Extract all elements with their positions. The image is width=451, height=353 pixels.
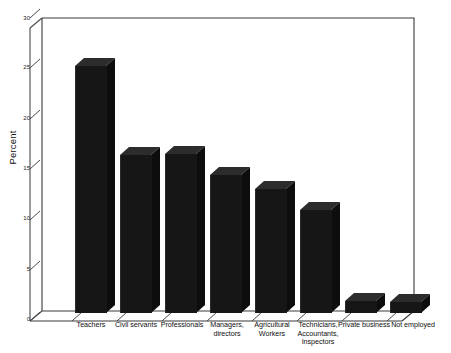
x-tick-label-not-employed: Not employed — [380, 321, 446, 330]
x-axis-tick-labels: Teachers Civil servants Professionals Ma… — [0, 321, 451, 353]
bar-series — [0, 0, 451, 353]
bar-chart-screenshot: Percent 0 5 10 15 20 25 30 — [0, 0, 451, 353]
